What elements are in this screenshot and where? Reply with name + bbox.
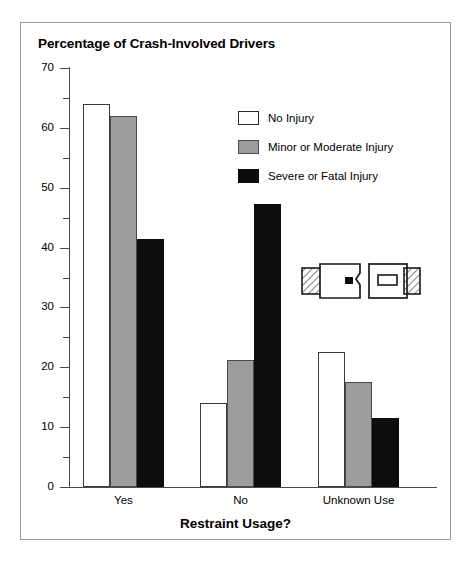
bar [318, 352, 345, 487]
legend-label: Severe or Fatal Injury [268, 170, 378, 182]
y-tick-label: 70 [14, 62, 54, 74]
bar [137, 239, 164, 487]
chart-title: Percentage of Crash-Involved Drivers [38, 36, 275, 51]
bar [227, 360, 254, 487]
legend-item: Severe or Fatal Injury [238, 163, 393, 188]
y-tick-major [60, 367, 69, 368]
bar [200, 403, 227, 487]
legend-item: No Injury [238, 105, 393, 130]
y-tick-major [60, 128, 69, 129]
y-tick-label: 30 [14, 301, 54, 313]
bar [254, 204, 281, 487]
y-tick-major [60, 307, 69, 308]
y-tick-minor [63, 397, 69, 398]
y-tick-label: 50 [14, 182, 54, 194]
x-axis-line [69, 487, 437, 488]
seatbelt-buckle-icon [300, 259, 422, 315]
y-tick-minor [63, 278, 69, 279]
bar [345, 382, 372, 487]
legend-label: No Injury [268, 112, 314, 124]
y-tick-minor [63, 158, 69, 159]
legend: No InjuryMinor or Moderate InjurySevere … [238, 105, 393, 192]
y-tick-major [60, 68, 69, 69]
y-tick-minor [63, 457, 69, 458]
y-tick-label: 60 [14, 122, 54, 134]
y-tick-label: 20 [14, 361, 54, 373]
y-tick-label: 10 [14, 421, 54, 433]
legend-item: Minor or Moderate Injury [238, 134, 393, 159]
y-tick-minor [63, 337, 69, 338]
y-tick-major [60, 427, 69, 428]
y-tick-minor [63, 218, 69, 219]
bar [83, 104, 110, 487]
y-tick-label: 40 [14, 242, 54, 254]
legend-swatch [238, 111, 259, 125]
y-axis-line [69, 67, 70, 488]
x-axis-title: Restraint Usage? [0, 516, 471, 531]
legend-label: Minor or Moderate Injury [268, 141, 393, 153]
y-tick-major [60, 188, 69, 189]
y-tick-major [60, 248, 69, 249]
bar [372, 418, 399, 487]
legend-swatch [238, 140, 259, 154]
y-tick-label: 0 [14, 481, 54, 493]
y-tick-minor [63, 98, 69, 99]
y-tick-major [60, 487, 69, 488]
bar [110, 116, 137, 487]
x-category-label: Unknown Use [288, 494, 429, 506]
legend-swatch [238, 169, 259, 183]
